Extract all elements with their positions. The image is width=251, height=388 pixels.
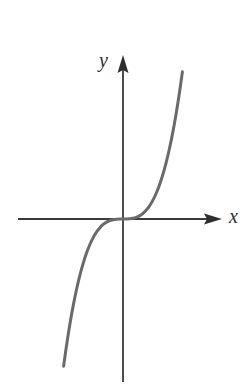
x-axis-label: x: [229, 206, 238, 226]
y-axis-label: y: [99, 50, 108, 70]
graph-canvas: [0, 0, 251, 388]
cubic-graph-figure: y x: [0, 0, 251, 388]
